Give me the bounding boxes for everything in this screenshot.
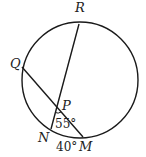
label-R: R <box>74 0 85 15</box>
chord-RN <box>51 24 79 129</box>
label-N: N <box>37 130 50 145</box>
label-P: P <box>61 98 71 113</box>
label-M: M <box>78 139 93 154</box>
circle <box>22 22 138 138</box>
arc-label-40: 40° <box>56 140 77 154</box>
angle-label-55: 55° <box>55 117 76 131</box>
angle-arc-P <box>56 112 62 113</box>
label-Q: Q <box>10 56 21 71</box>
geometry-diagram: R Q P N M 55° 40° <box>0 0 146 157</box>
